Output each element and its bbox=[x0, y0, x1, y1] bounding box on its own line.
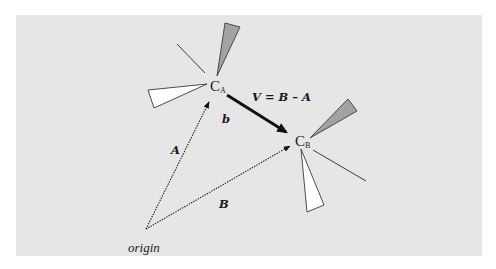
label-b-small: b bbox=[222, 112, 230, 126]
diagram-panel bbox=[16, 15, 482, 256]
label-a-vector: A bbox=[170, 143, 180, 157]
label-origin: origin bbox=[128, 240, 160, 255]
vector-diagram: CA CB V = B – A b A B origin bbox=[0, 0, 496, 269]
label-v-equation: V = B – A bbox=[252, 90, 311, 104]
label-b-vector: B bbox=[218, 197, 229, 211]
